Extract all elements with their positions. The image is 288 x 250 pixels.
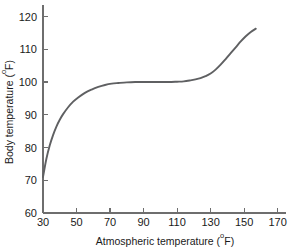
x-tick-label: 150 (235, 216, 253, 228)
y-axis-title: Body temperature (oF) (0, 60, 15, 164)
x-tick-label: 170 (268, 216, 286, 228)
x-tick-label: 110 (168, 216, 186, 228)
chart-plot-svg: 60708090100110120 30507090110130150170 A… (0, 0, 288, 250)
y-tick-label: 80 (25, 142, 37, 154)
x-tick-label: 90 (137, 216, 149, 228)
data-series-line (43, 29, 256, 177)
x-axis-title: Atmospheric temperature (oF) (96, 230, 234, 247)
x-axis-tick-marks (43, 208, 278, 213)
y-axis-tick-labels: 60708090100110120 (19, 11, 37, 219)
x-tick-label: 30 (37, 216, 49, 228)
y-tick-label: 90 (25, 109, 37, 121)
y-tick-label: 120 (19, 11, 37, 23)
x-tick-label: 130 (201, 216, 219, 228)
y-tick-label: 70 (25, 174, 37, 186)
y-tick-label: 110 (19, 43, 37, 55)
y-tick-label: 60 (25, 207, 37, 219)
x-tick-label: 70 (104, 216, 116, 228)
y-axis-tick-marks (43, 17, 48, 213)
y-tick-label: 100 (19, 76, 37, 88)
x-tick-label: 50 (70, 216, 82, 228)
x-axis-tick-labels: 30507090110130150170 (37, 216, 287, 228)
chart-figure: 60708090100110120 30507090110130150170 A… (0, 0, 288, 250)
